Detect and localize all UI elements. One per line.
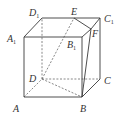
vertex-label-e: E [70,6,77,17]
vertex-label-b: B [80,103,86,114]
vertex-label-f: F [91,28,99,39]
vertex-label-a: A [12,103,20,114]
edge-b-c [82,79,100,97]
edge-a1-d1 [24,18,42,37]
vertex-label-c: C [104,75,111,86]
vertex-label-c1: C1 [104,13,114,25]
edge-f-b [82,29,91,97]
cube-diagram: ABCDA1B1C1D1EF [0,0,123,118]
vertex-label-b1: B1 [67,39,76,51]
edge-e-f [74,18,91,29]
vertex-label-a1: A1 [6,33,16,45]
hidden-edge-d-b [42,79,82,97]
vertex-label-d: D [28,73,37,84]
vertex-label-d1: D1 [28,7,39,19]
